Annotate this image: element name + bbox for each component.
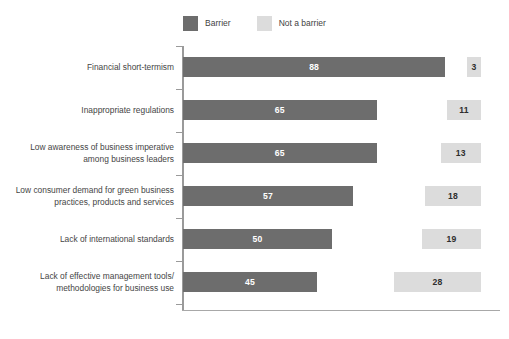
category-label-line: Low awareness of business imperative [30, 142, 174, 154]
value-axis-baseline [182, 310, 500, 311]
chart-legend: Barrier Not a barrier [0, 16, 509, 31]
bar-barrier: 65 [183, 143, 377, 163]
legend-swatch-not-a-barrier [257, 16, 272, 31]
bar-value-barrier: 50 [253, 234, 263, 244]
category-label-line: methodologies for business use [56, 283, 174, 295]
bar-not-a-barrier: 18 [425, 186, 481, 206]
bar-value-barrier: 65 [275, 148, 285, 158]
bar-row: Financial short-termism883 [0, 46, 509, 89]
legend-label-not-a-barrier: Not a barrier [279, 19, 326, 28]
bar-value-not-a-barrier: 13 [456, 148, 466, 158]
category-label: Inappropriate regulations [0, 89, 174, 132]
bar-row: Lack of effective management tools/metho… [0, 261, 509, 304]
legend-item-barrier: Barrier [183, 16, 231, 31]
category-label: Financial short-termism [0, 46, 174, 89]
category-label-line: Lack of effective management tools/ [40, 271, 174, 283]
category-label-line: Financial short-termism [87, 62, 174, 74]
bar-barrier: 65 [183, 100, 377, 120]
category-label: Low consumer demand for green businesspr… [0, 175, 174, 218]
bar-row: Low consumer demand for green businesspr… [0, 175, 509, 218]
category-label: Lack of international standards [0, 218, 174, 261]
bar-row: Low awareness of business imperativeamon… [0, 132, 509, 175]
bar-value-not-a-barrier: 19 [447, 234, 457, 244]
category-label-line: practices, products and services [54, 197, 174, 209]
bar-value-not-a-barrier: 18 [448, 191, 458, 201]
bar-not-a-barrier: 19 [422, 229, 481, 249]
bar-value-not-a-barrier: 3 [472, 62, 477, 72]
axis-tick [176, 304, 182, 305]
category-label: Lack of effective management tools/metho… [0, 261, 174, 304]
bar-not-a-barrier: 11 [447, 100, 481, 120]
category-label-line: Low consumer demand for green business [16, 185, 174, 197]
bar-not-a-barrier: 3 [467, 57, 481, 77]
category-label: Low awareness of business imperativeamon… [0, 132, 174, 175]
bar-barrier: 45 [183, 272, 317, 292]
legend-swatch-barrier [183, 16, 198, 31]
legend-item-not-a-barrier: Not a barrier [257, 16, 326, 31]
bar-not-a-barrier: 13 [441, 143, 481, 163]
bar-row: Lack of international standards5019 [0, 218, 509, 261]
bar-chart-canvas: Barrier Not a barrier Financial short-te… [0, 0, 509, 339]
plot-area: Financial short-termism883Inappropriate … [0, 44, 509, 314]
bar-value-barrier: 57 [263, 191, 273, 201]
bar-row: Inappropriate regulations6511 [0, 89, 509, 132]
legend-label-barrier: Barrier [205, 19, 231, 28]
bar-value-barrier: 65 [275, 105, 285, 115]
category-label-line: among business leaders [83, 154, 174, 166]
category-label-line: Inappropriate regulations [81, 105, 174, 117]
bar-not-a-barrier: 28 [394, 272, 481, 292]
bar-barrier: 57 [183, 186, 353, 206]
bar-value-barrier: 45 [245, 277, 255, 287]
bar-value-not-a-barrier: 28 [433, 277, 443, 287]
bar-value-not-a-barrier: 11 [459, 105, 468, 115]
bar-barrier: 88 [183, 57, 445, 77]
bar-barrier: 50 [183, 229, 332, 249]
bar-value-barrier: 88 [309, 62, 319, 72]
category-label-line: Lack of international standards [60, 234, 174, 246]
